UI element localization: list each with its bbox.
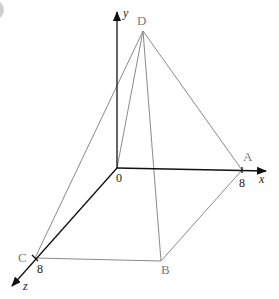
corner-circle-fragment (0, 0, 4, 20)
x-tick-label: 8 (239, 176, 245, 190)
y-axis-label: y (122, 6, 129, 20)
x-axis-label: x (258, 172, 265, 186)
vertex-label-B: B (161, 262, 170, 277)
vertex-label-C: C (18, 250, 27, 265)
origin-label: 0 (116, 171, 122, 185)
pyramid-diagram: y x z 0 8 8 D A B C (0, 0, 279, 299)
x-axis (117, 168, 266, 171)
pyramid-edges (35, 31, 242, 261)
z-axis-label: z (22, 279, 28, 293)
z-tick-label: 8 (37, 262, 43, 276)
edge-DC (35, 31, 143, 258)
edge-DB (143, 31, 161, 261)
edge-DA (143, 31, 242, 170)
edge-AB (161, 170, 242, 261)
vertex-label-A: A (243, 149, 253, 164)
vertex-label-D: D (137, 13, 146, 28)
edge-CB (35, 258, 161, 261)
z-axis (12, 168, 117, 286)
edge-DO (117, 31, 143, 168)
